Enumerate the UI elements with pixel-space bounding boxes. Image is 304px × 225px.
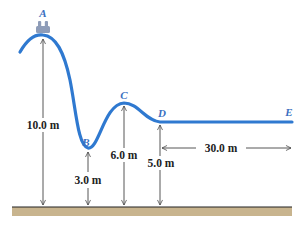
ground — [12, 207, 292, 216]
point-label-D: D — [157, 107, 166, 119]
roller-coaster-diagram: A B C D E 10.0 m 3.0 m 6.0 m 5.0 m 30.0 … — [0, 0, 304, 225]
height-label-A: 10.0 m — [27, 119, 60, 131]
height-label-B: 3.0 m — [75, 174, 102, 186]
distance-label-DE: 30.0 m — [205, 142, 238, 154]
point-label-C: C — [120, 89, 128, 101]
point-label-E: E — [284, 106, 292, 118]
height-label-D: 5.0 m — [148, 157, 175, 169]
point-label-A: A — [38, 7, 46, 19]
cart-icon — [36, 21, 50, 33]
ground-fill — [12, 207, 292, 216]
point-label-B: B — [81, 136, 89, 148]
height-label-C: 6.0 m — [111, 149, 138, 161]
